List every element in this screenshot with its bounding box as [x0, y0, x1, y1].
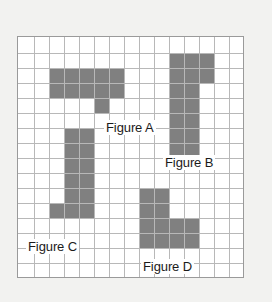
shape-cell — [79, 203, 94, 218]
shape-cell — [184, 53, 199, 68]
shape-cell — [184, 128, 199, 143]
shape-cell — [94, 98, 109, 113]
shape-cell — [94, 83, 109, 98]
shape-cell — [184, 98, 199, 113]
grid-line-vertical — [154, 37, 155, 277]
shape-cell — [64, 128, 79, 143]
shape-cell — [169, 128, 184, 143]
shape-cell — [184, 218, 199, 233]
shape-cell — [184, 113, 199, 128]
grid-line-horizontal — [18, 53, 243, 54]
shape-cell — [184, 233, 199, 248]
shape-cell — [79, 173, 94, 188]
grid-line-horizontal — [18, 113, 243, 114]
shape-cell — [94, 68, 109, 83]
figure-b-label: Figure B — [163, 155, 215, 170]
shape-cell — [64, 83, 79, 98]
shape-cell — [139, 188, 154, 203]
grid-line-horizontal — [18, 83, 243, 84]
shape-cell — [169, 233, 184, 248]
grid-line-vertical — [79, 37, 80, 277]
grid-line-horizontal — [18, 203, 243, 204]
shape-cell — [139, 218, 154, 233]
grid-line-horizontal — [18, 98, 243, 99]
grid-line-horizontal — [18, 263, 243, 264]
grid-line-horizontal — [18, 218, 243, 219]
shape-cell — [154, 233, 169, 248]
shape-cell — [64, 68, 79, 83]
shape-cell — [49, 203, 64, 218]
shape-cell — [64, 188, 79, 203]
shape-cell — [139, 233, 154, 248]
grid-line-vertical — [94, 37, 95, 277]
figure-d-label: Figure D — [141, 259, 194, 274]
shape-cell — [199, 68, 214, 83]
shape-cell — [169, 218, 184, 233]
grid-line-vertical — [229, 37, 230, 277]
shape-cell — [64, 158, 79, 173]
grid-line-horizontal — [18, 143, 243, 144]
grid-line-vertical — [124, 37, 125, 277]
shape-cell — [109, 83, 124, 98]
grid-line-horizontal — [18, 233, 243, 234]
grid-line-horizontal — [18, 188, 243, 189]
shape-cell — [109, 68, 124, 83]
shape-cell — [169, 98, 184, 113]
shape-cell — [64, 173, 79, 188]
grid-line-horizontal — [18, 173, 243, 174]
figure-c-label: Figure C — [26, 239, 79, 254]
grid-line-horizontal — [18, 68, 243, 69]
shape-cell — [169, 83, 184, 98]
shape-cell — [184, 68, 199, 83]
shape-cell — [79, 83, 94, 98]
shape-cell — [64, 203, 79, 218]
shape-cell — [49, 83, 64, 98]
shape-cell — [79, 188, 94, 203]
shape-cell — [169, 68, 184, 83]
shape-cell — [154, 203, 169, 218]
shape-cell — [79, 143, 94, 158]
shape-cell — [154, 188, 169, 203]
shape-cell — [184, 83, 199, 98]
shape-cell — [169, 53, 184, 68]
shape-cell — [64, 143, 79, 158]
shape-cell — [79, 68, 94, 83]
shape-cell — [154, 218, 169, 233]
grid-line-vertical — [109, 37, 110, 277]
shape-cell — [139, 203, 154, 218]
shape-cell — [79, 128, 94, 143]
shape-cell — [49, 68, 64, 83]
shape-cell — [199, 53, 214, 68]
diagram-root: Figure A Figure B Figure C Figure D — [0, 0, 272, 302]
shape-cell — [169, 113, 184, 128]
grid-line-vertical — [139, 37, 140, 277]
figure-a-label: Figure A — [104, 120, 156, 135]
shape-cell — [79, 158, 94, 173]
